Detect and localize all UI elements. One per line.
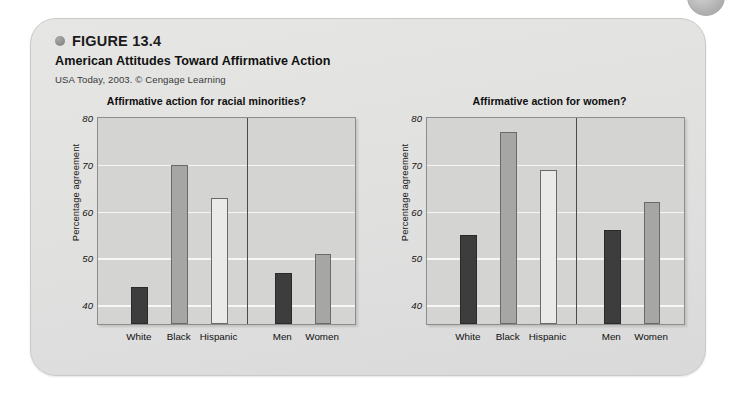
y-axis-tick-label: 80 xyxy=(82,113,93,124)
x-axis-label: Black xyxy=(167,331,191,342)
y-axis-label: Percentage agreement xyxy=(399,123,410,263)
figure-source: USA Today, 2003. © Cengage Learning xyxy=(55,74,615,85)
bar-hispanic xyxy=(211,198,228,324)
y-axis-tick-label: 60 xyxy=(411,206,422,217)
group-divider xyxy=(247,118,249,324)
y-axis-tick-label: 80 xyxy=(411,113,422,124)
y-axis-label: Percentage agreement xyxy=(70,123,81,263)
x-axis-label: Men xyxy=(602,331,621,342)
plot-area: 8070605040 xyxy=(97,117,356,325)
x-axis-label: Hispanic xyxy=(200,331,238,342)
bar-women xyxy=(315,254,332,324)
y-axis-tick-label: 50 xyxy=(82,253,93,264)
y-axis-tick-label: 40 xyxy=(82,300,93,311)
figure-number: FIGURE 13.4 xyxy=(72,33,161,49)
plot-area: 8070605040 xyxy=(426,117,685,325)
x-axis-label: Men xyxy=(273,331,292,342)
bar-hispanic xyxy=(540,170,557,325)
figure-title: American Attitudes Toward Affirmative Ac… xyxy=(55,54,615,68)
page-corner-decoration xyxy=(687,0,725,16)
bar-women xyxy=(644,202,661,324)
chart-women: Affirmative action for women? Percentage… xyxy=(380,95,691,357)
charts-row: Affirmative action for racial minorities… xyxy=(51,95,691,357)
chart-racial-minorities: Affirmative action for racial minorities… xyxy=(51,95,362,357)
figure-header: FIGURE 13.4 American Attitudes Toward Af… xyxy=(55,33,615,85)
figure-card: FIGURE 13.4 American Attitudes Toward Af… xyxy=(30,18,706,376)
group-divider xyxy=(576,118,578,324)
y-axis-tick-label: 60 xyxy=(82,206,93,217)
bar-men xyxy=(604,230,621,324)
gridline xyxy=(427,165,684,167)
figure-number-row: FIGURE 13.4 xyxy=(55,33,615,49)
x-axis-label: Hispanic xyxy=(529,331,567,342)
x-axis-label: Women xyxy=(305,331,339,342)
bar-white xyxy=(131,287,148,324)
x-axis-label: Women xyxy=(634,331,668,342)
x-axis-labels: WhiteBlackHispanicMenWomen xyxy=(426,331,685,349)
chart-title: Affirmative action for racial minorities… xyxy=(51,95,362,107)
bar-men xyxy=(275,273,292,325)
gridline xyxy=(98,165,355,167)
chart-title: Affirmative action for women? xyxy=(380,95,691,107)
bullet-icon xyxy=(55,36,65,46)
x-axis-label: White xyxy=(455,331,480,342)
y-axis-tick-label: 40 xyxy=(411,300,422,311)
bar-white xyxy=(460,235,477,324)
bar-black xyxy=(171,165,188,324)
x-axis-labels: WhiteBlackHispanicMenWomen xyxy=(97,331,356,349)
y-axis-tick-label: 70 xyxy=(411,159,422,170)
bar-black xyxy=(500,132,517,324)
x-axis-label: Black xyxy=(496,331,520,342)
y-axis-tick-label: 70 xyxy=(82,159,93,170)
y-axis-tick-label: 50 xyxy=(411,253,422,264)
x-axis-label: White xyxy=(126,331,151,342)
